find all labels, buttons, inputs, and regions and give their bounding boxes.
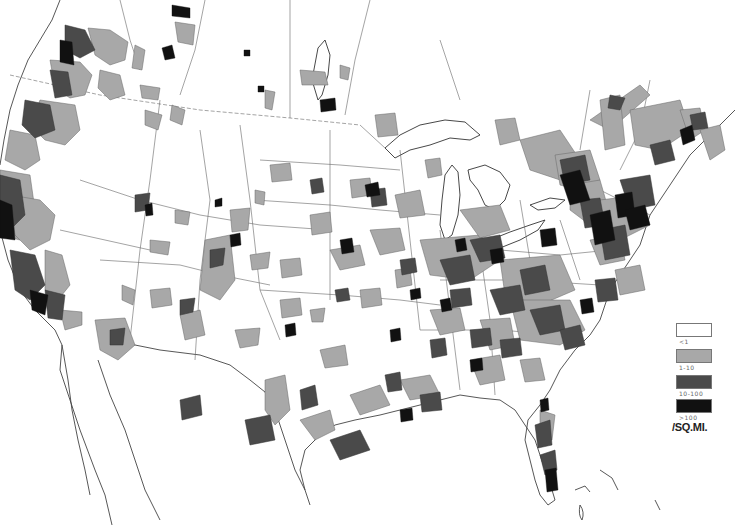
legend-swatch-dark-gray: [676, 375, 712, 389]
legend-item-1-10: 1-10: [676, 349, 736, 371]
lake-huron: [468, 165, 510, 210]
legend-label: <1: [679, 338, 736, 345]
lake-superior: [385, 120, 480, 158]
legend-swatch-light-gray: [676, 349, 712, 363]
legend-label: 1-10: [679, 364, 736, 371]
lake-ontario: [530, 198, 565, 210]
legend-label: >100: [679, 414, 736, 421]
legend-unit: /SQ.MI.: [672, 421, 707, 433]
legend-item-lt1: <1: [676, 323, 736, 345]
legend-item-10-100: 10-100: [676, 375, 736, 397]
lake-michigan: [440, 165, 460, 240]
legend-label: 10-100: [679, 390, 736, 397]
legend-swatch-black: [676, 399, 712, 413]
legend-item-gt100: >100: [676, 399, 736, 421]
legend-swatch-white: [676, 323, 712, 337]
population-density-map: [0, 0, 739, 531]
lake-winnipeg: [312, 40, 330, 100]
